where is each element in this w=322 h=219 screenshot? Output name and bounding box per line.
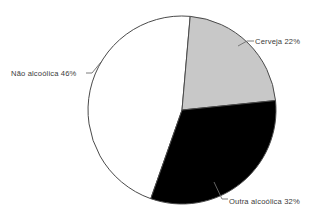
- pie-label-nao-alcoolica: Não alcoólica 46%: [11, 70, 76, 78]
- pie-slice-cerveja: [182, 16, 276, 110]
- pie-chart-figure: Cerveja 22% Não alcoólica 46% Outra alco…: [0, 0, 322, 219]
- pie-label-cerveja: Cerveja 22%: [255, 38, 300, 46]
- pie-chart-canvas: [0, 0, 322, 219]
- pie-label-outra-alcoolica: Outra alcoólica 32%: [229, 198, 300, 206]
